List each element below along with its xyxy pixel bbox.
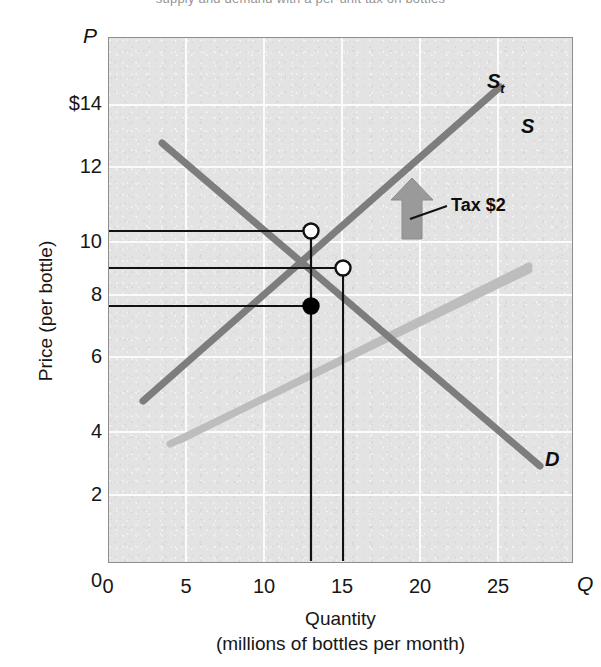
y-axis-title: Price (per bottle)	[35, 181, 57, 441]
x-tick-0: 0	[78, 575, 138, 598]
x-tick-15: 15	[312, 575, 372, 598]
tax-annotation-label: Tax $2	[451, 195, 506, 216]
x-axis-symbol: Q	[577, 572, 593, 596]
supply-curve-label: S	[521, 115, 534, 138]
marker-post-tax-equilibrium	[304, 224, 319, 239]
supply-tax-curve-label-sub: t	[500, 81, 504, 96]
x-tick-10: 10	[234, 575, 294, 598]
x-axis-title: Quantity	[108, 608, 573, 630]
x-axis-subtitle: (millions of bottles per month)	[88, 633, 593, 655]
y-tick-12: 12	[38, 155, 102, 178]
x-tick-25: 25	[468, 575, 528, 598]
supply-tax-curve-label-text: S	[487, 70, 500, 92]
marker-pre-tax-equilibrium	[336, 261, 351, 276]
tax-arrow-icon	[391, 178, 433, 239]
demand-curve-label: D	[545, 448, 559, 471]
y-tick-2: 2	[38, 483, 102, 506]
y-tick-14: $14	[38, 92, 102, 115]
x-tick-20: 20	[390, 575, 450, 598]
economics-supply-demand-figure: supply and demand with a per-unit tax on…	[0, 0, 601, 667]
marker-seller-net-price	[304, 299, 319, 314]
supply-tax-curve	[143, 87, 500, 401]
supply-tax-curve-label: St	[487, 70, 505, 96]
x-tick-5: 5	[156, 575, 216, 598]
